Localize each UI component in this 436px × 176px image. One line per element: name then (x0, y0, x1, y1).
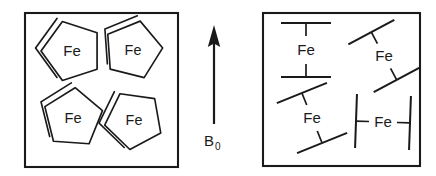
field-label-B: B (204, 132, 214, 149)
magnetic-field-arrow (208, 25, 220, 124)
figure-canvas: FeFeFeFe FeFeFeFe B 0 (0, 0, 436, 176)
ferrocene-orientation-figure: FeFeFeFe FeFeFeFe B 0 (0, 0, 436, 176)
right-panel-box (263, 13, 420, 166)
iron-atom-label: Fe (126, 112, 143, 128)
iron-atom-label: Fe (374, 113, 392, 130)
iron-atom-label: Fe (64, 110, 81, 126)
iron-atom-label: Fe (125, 42, 142, 58)
left-panel-box (25, 13, 178, 167)
field-label-subscript: 0 (215, 141, 221, 152)
iron-atom-label: Fe (375, 47, 393, 64)
iron-atom-label: Fe (297, 41, 315, 58)
iron-atom-label: Fe (63, 42, 81, 59)
field-label-group: B 0 (204, 132, 221, 152)
iron-atom-label: Fe (303, 109, 321, 126)
